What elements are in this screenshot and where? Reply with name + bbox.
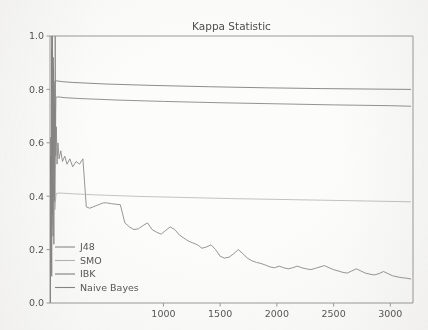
chart-background: [0, 0, 428, 330]
y-tick-label: 0.4: [29, 191, 44, 202]
chart-title: Kappa Statistic: [192, 20, 271, 32]
x-tick-label: 2000: [265, 308, 289, 319]
x-tick-label: 1500: [208, 308, 232, 319]
y-tick-label: 1.0: [29, 30, 44, 41]
figure-page: 0.00.20.40.60.81.0 10001500200025003000 …: [0, 0, 428, 330]
x-tick-label: 3000: [378, 308, 402, 319]
chart-figure: 0.00.20.40.60.81.0 10001500200025003000 …: [0, 0, 428, 330]
legend-label-ibk[interactable]: IBK: [80, 268, 96, 279]
x-tick-label: 2500: [322, 308, 346, 319]
y-tick-label: 0.6: [29, 137, 44, 148]
y-tick-label: 0.8: [29, 84, 44, 95]
y-tick-label: 0.0: [29, 297, 44, 308]
y-tick-label: 0.2: [29, 244, 44, 255]
legend-label-j48[interactable]: J48: [79, 241, 95, 252]
x-tick-label: 1000: [151, 308, 175, 319]
kappa-statistic-chart[interactable]: 0.00.20.40.60.81.0 10001500200025003000 …: [0, 0, 428, 330]
legend-label-smo[interactable]: SMO: [80, 255, 102, 266]
legend-label-naive-bayes[interactable]: Naive Bayes: [80, 282, 139, 293]
